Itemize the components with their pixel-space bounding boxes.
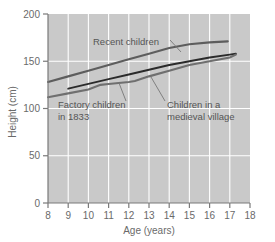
y-tick-label-0: 0 xyxy=(34,198,40,209)
y-tick-label-100: 100 xyxy=(23,103,40,114)
chart-page: 0 50 100 150 200 8 9 10 11 12 13 14 15 1… xyxy=(0,0,275,242)
y-tick-label-200: 200 xyxy=(23,9,40,20)
x-tick-label-15: 15 xyxy=(184,210,196,221)
x-tick-label-9: 9 xyxy=(65,210,71,221)
annotation-label-recent-children: Recent children xyxy=(93,36,159,47)
y-axis-title: Height (cm) xyxy=(7,86,18,138)
x-tick-label-17: 17 xyxy=(224,210,236,221)
x-axis-title: Age (years) xyxy=(123,225,175,236)
x-tick-label-16: 16 xyxy=(204,210,216,221)
y-tick-label-50: 50 xyxy=(29,150,41,161)
annotation-label-medieval-village-line2: medieval village xyxy=(167,111,235,122)
y-tick-label-150: 150 xyxy=(23,56,40,67)
x-tick-label-12: 12 xyxy=(123,210,135,221)
x-tick-label-10: 10 xyxy=(83,210,95,221)
x-tick-label-11: 11 xyxy=(103,210,114,221)
annotation-label-medieval-village-line1: Children in a xyxy=(167,99,221,110)
annotation-label-factory-children-line1: Factory children xyxy=(58,99,126,110)
x-tick-label-8: 8 xyxy=(45,210,51,221)
x-tick-label-18: 18 xyxy=(244,210,256,221)
annotation-label-factory-children-line2: in 1833 xyxy=(58,111,89,122)
growth-chart: 0 50 100 150 200 8 9 10 11 12 13 14 15 1… xyxy=(0,0,275,242)
x-tick-label-14: 14 xyxy=(164,210,176,221)
x-tick-label-13: 13 xyxy=(143,210,155,221)
